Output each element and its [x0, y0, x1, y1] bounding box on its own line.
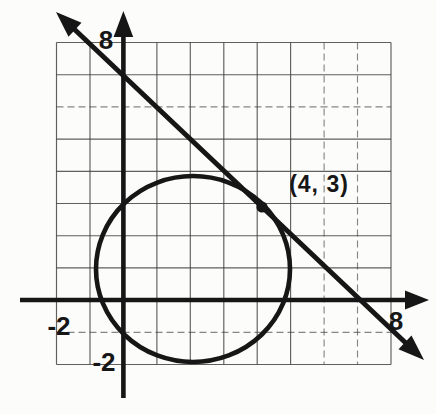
x-axis-arrowhead-icon — [405, 291, 429, 310]
coordinate-plane-svg: 8 (4, 3) -2 8 -2 — [0, 0, 436, 414]
x-axis-max-label: 8 — [389, 306, 403, 336]
coordinate-grid — [57, 43, 392, 365]
tangent-point-label: (4, 3) — [289, 171, 349, 197]
tangent-line — [56, 12, 424, 360]
y-axis-max-label: 8 — [99, 25, 113, 55]
x-axis-min-label: -2 — [47, 311, 70, 341]
y-axis-arrowhead-icon — [114, 11, 134, 37]
graph-figure: 8 (4, 3) -2 8 -2 — [0, 0, 436, 414]
tangent-point-dot — [256, 201, 267, 212]
y-axis-min-label: -2 — [92, 347, 115, 377]
